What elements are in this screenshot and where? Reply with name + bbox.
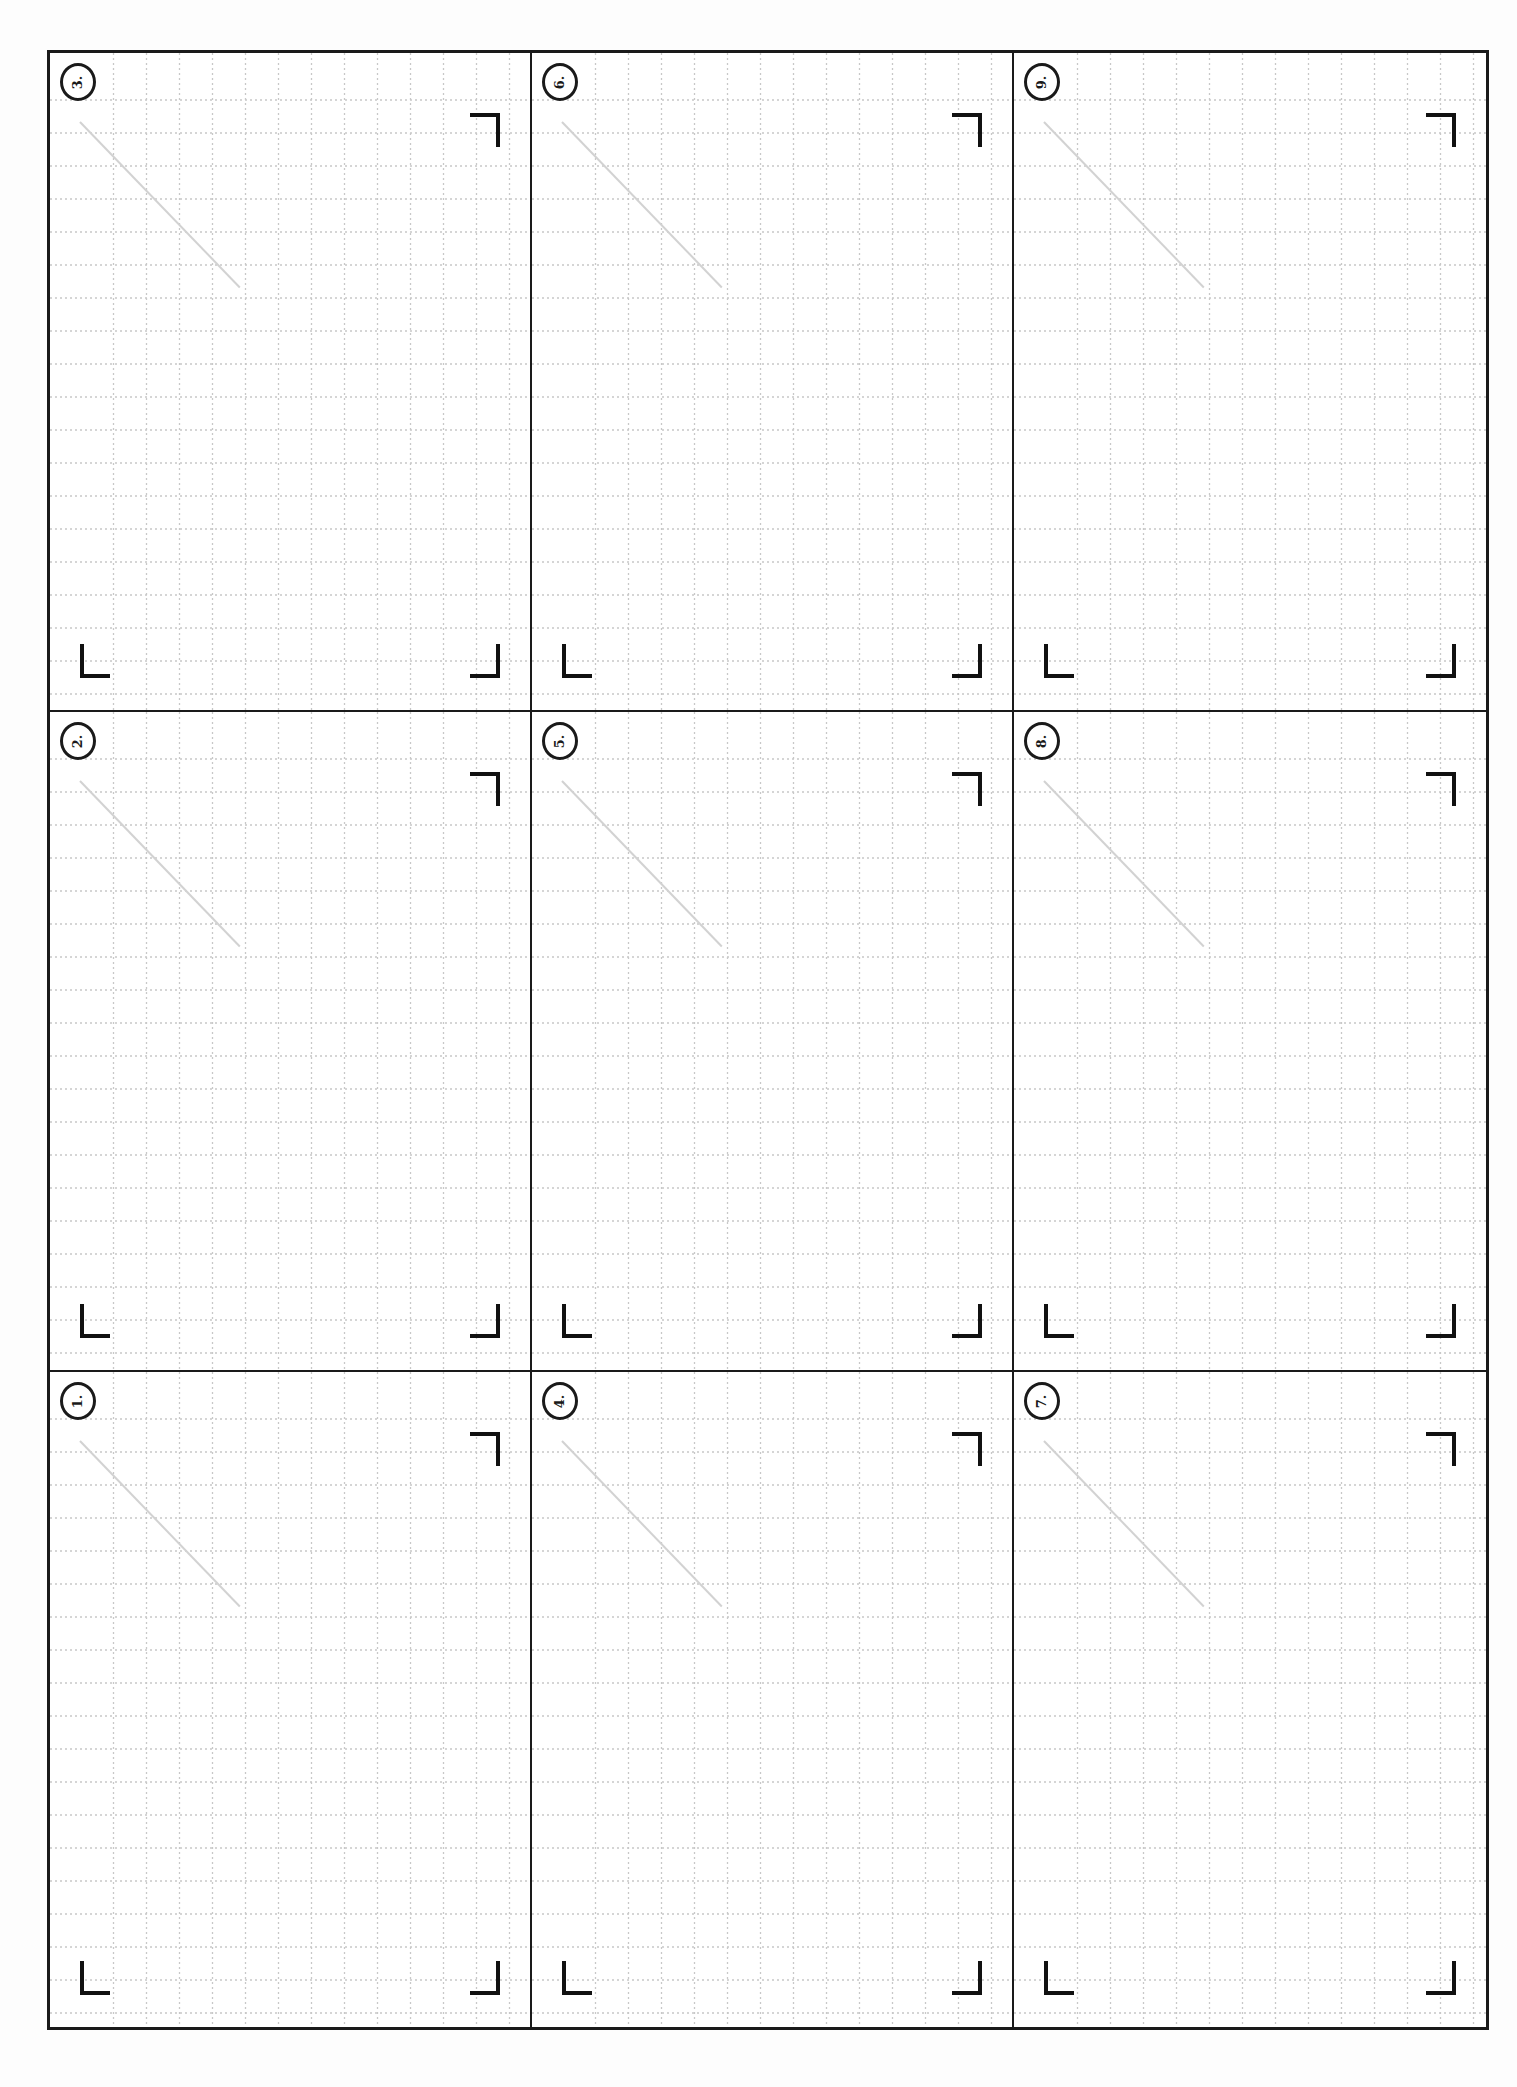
crop-mark-bottom-right-icon [1426, 644, 1456, 678]
panel-number-badge: 2. [60, 722, 96, 760]
crop-mark-top-right-icon [1426, 113, 1456, 147]
crop-mark-bottom-left-icon [1044, 644, 1074, 678]
panel-number: 9. [1035, 75, 1048, 89]
panel-number-badge: 4. [542, 1382, 578, 1420]
diagonal-guide-line [79, 121, 240, 288]
crop-mark-bottom-left-icon [1044, 1961, 1074, 1995]
crop-mark-top-right-icon [952, 1432, 982, 1466]
diagonal-guide-line [561, 121, 722, 288]
panel-number-badge: 7. [1024, 1382, 1060, 1420]
panel-number: 6. [553, 75, 566, 89]
panel-number-badge: 5. [542, 722, 578, 760]
crop-mark-bottom-right-icon [470, 644, 500, 678]
crop-mark-bottom-right-icon [952, 644, 982, 678]
diagonal-guide-line [561, 780, 722, 947]
panel-grid: 3. 6. 9. [50, 53, 1486, 2027]
panel-7: 7. [1014, 1372, 1486, 2027]
graph-paper-grid [50, 53, 530, 710]
panel-number: 3. [71, 75, 84, 89]
crop-mark-bottom-right-icon [952, 1304, 982, 1338]
diagonal-guide-line [79, 1440, 240, 1607]
panel-number: 1. [71, 1394, 84, 1408]
panel-9: 9. [1014, 53, 1486, 712]
panel-number-badge: 6. [542, 63, 578, 101]
panel-number: 8. [1035, 734, 1048, 748]
panel-5: 5. [532, 712, 1014, 1372]
crop-mark-top-right-icon [470, 772, 500, 806]
panel-number: 5. [553, 734, 566, 748]
crop-mark-bottom-left-icon [80, 644, 110, 678]
diagonal-guide-line [1043, 121, 1204, 288]
panel-3: 3. [50, 53, 532, 712]
crop-mark-bottom-right-icon [952, 1961, 982, 1995]
graph-paper-grid [532, 712, 1012, 1370]
graph-paper-grid [532, 1372, 1012, 2027]
crop-mark-top-right-icon [470, 1432, 500, 1466]
graph-paper-grid [1014, 712, 1486, 1370]
crop-mark-bottom-left-icon [80, 1304, 110, 1338]
crop-mark-top-right-icon [952, 113, 982, 147]
panel-8: 8. [1014, 712, 1486, 1372]
crop-mark-bottom-left-icon [562, 1304, 592, 1338]
crop-mark-bottom-left-icon [562, 644, 592, 678]
crop-mark-top-right-icon [470, 113, 500, 147]
crop-mark-bottom-right-icon [1426, 1961, 1456, 1995]
crop-mark-top-right-icon [1426, 772, 1456, 806]
crop-mark-top-right-icon [952, 772, 982, 806]
crop-mark-bottom-left-icon [1044, 1304, 1074, 1338]
panel-1: 1. [50, 1372, 532, 2027]
crop-mark-bottom-left-icon [80, 1961, 110, 1995]
panel-number: 7. [1035, 1394, 1048, 1408]
crop-mark-top-right-icon [1426, 1432, 1456, 1466]
panel-number: 2. [71, 734, 84, 748]
panel-number-badge: 1. [60, 1382, 96, 1420]
panel-number-badge: 8. [1024, 722, 1060, 760]
panel-6: 6. [532, 53, 1014, 712]
graph-paper-grid [50, 712, 530, 1370]
panel-2: 2. [50, 712, 532, 1372]
panel-4: 4. [532, 1372, 1014, 2027]
graph-paper-grid [50, 1372, 530, 2027]
panel-number: 4. [553, 1394, 566, 1408]
diagonal-guide-line [1043, 1440, 1204, 1607]
crop-mark-bottom-right-icon [1426, 1304, 1456, 1338]
graph-paper-grid [1014, 53, 1486, 710]
diagonal-guide-line [1043, 780, 1204, 947]
grid-sheet: 3. 6. 9. [47, 50, 1489, 2030]
graph-paper-grid [1014, 1372, 1486, 2027]
diagonal-guide-line [561, 1440, 722, 1607]
panel-number-badge: 3. [60, 63, 96, 101]
crop-mark-bottom-left-icon [562, 1961, 592, 1995]
crop-mark-bottom-right-icon [470, 1304, 500, 1338]
diagonal-guide-line [79, 780, 240, 947]
graph-paper-grid [532, 53, 1012, 710]
panel-number-badge: 9. [1024, 63, 1060, 101]
crop-mark-bottom-right-icon [470, 1961, 500, 1995]
